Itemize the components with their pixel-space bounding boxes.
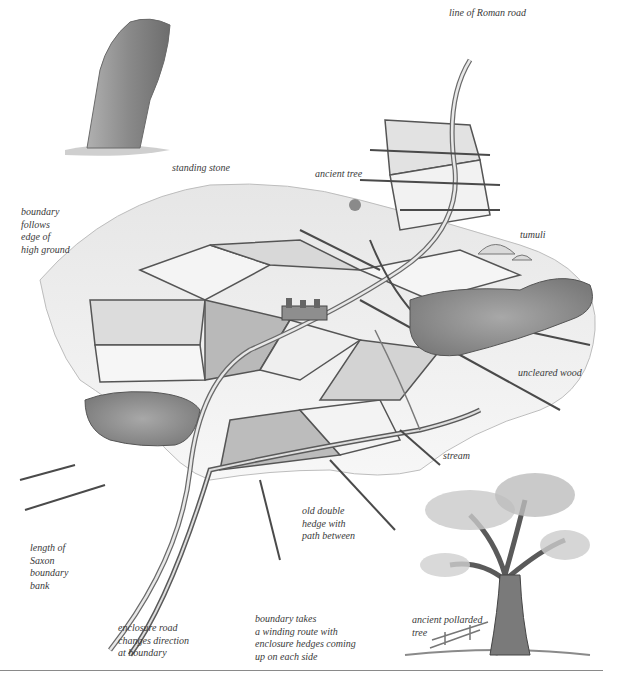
label-standing-stone: standing stone bbox=[172, 162, 230, 175]
label-roman-road: line of Roman road bbox=[449, 7, 526, 20]
label-boundary-high-ground: boundary follows edge of high ground bbox=[21, 206, 70, 256]
label-enclosure-road: enclosure road changes direction at boun… bbox=[118, 622, 189, 660]
label-pollarded-tree: ancient pollarded tree bbox=[412, 614, 482, 639]
label-stream: stream bbox=[443, 450, 470, 463]
label-ancient-tree: ancient tree bbox=[315, 168, 362, 181]
label-uncleared-wood: uncleared wood bbox=[518, 367, 582, 380]
label-tumuli: tumuli bbox=[520, 229, 546, 242]
label-saxon-bank: length of Saxon boundary bank bbox=[30, 542, 68, 592]
landscape-illustration bbox=[0, 0, 620, 684]
ancient-tree-marker bbox=[349, 199, 361, 211]
label-double-hedge: old double hedge with path between bbox=[302, 505, 355, 543]
label-winding-boundary: boundary takes a winding route with encl… bbox=[255, 613, 356, 663]
standing-stone-drawing bbox=[65, 19, 170, 156]
bottom-rule bbox=[0, 670, 603, 671]
